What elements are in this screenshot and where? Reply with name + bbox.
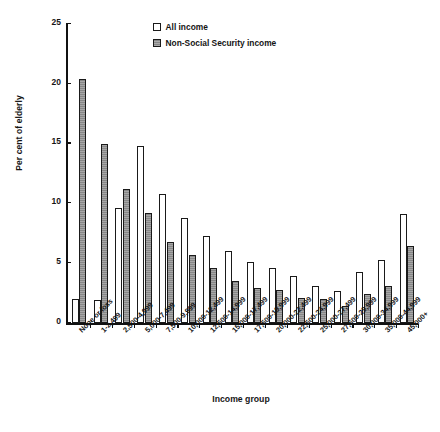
bar xyxy=(79,79,86,323)
y-axis-tick-label: 25 xyxy=(52,17,61,27)
plot-area: 0510152025 xyxy=(68,24,418,323)
bar xyxy=(137,146,144,323)
y-axis-tick-label: 15 xyxy=(52,136,61,146)
y-axis-tick-label: 5 xyxy=(56,256,61,266)
bars-layer xyxy=(68,24,418,323)
bar xyxy=(159,194,166,323)
bar-chart-figure: Per cent of elderly All income Non-Socia… xyxy=(0,0,440,432)
x-axis-title: Income group xyxy=(0,394,440,404)
y-axis-tick-label: 20 xyxy=(52,77,61,87)
y-axis-tick-label: 0 xyxy=(56,316,61,326)
x-axis-tick-labels: None or loss1-2,4992,500-4,9995,000-7,49… xyxy=(68,328,428,398)
y-axis-tick-label: 10 xyxy=(52,196,61,206)
bar xyxy=(123,189,130,323)
bar xyxy=(72,299,79,323)
bar xyxy=(115,208,122,323)
y-axis-title: Per cent of elderly xyxy=(14,68,24,198)
